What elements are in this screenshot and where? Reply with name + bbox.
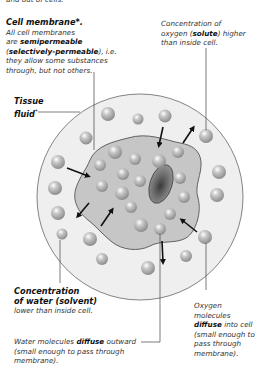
oxygen-diffuse-label: Oxygen molecules diffuse into cell (smal… [194, 301, 255, 359]
water-concentration-label: Concentration of water (solvent) lower t… [14, 286, 97, 316]
water-diffuse-label: Water molecules diffuse outward (small e… [14, 337, 136, 366]
arrow-out-bottom [162, 241, 163, 262]
